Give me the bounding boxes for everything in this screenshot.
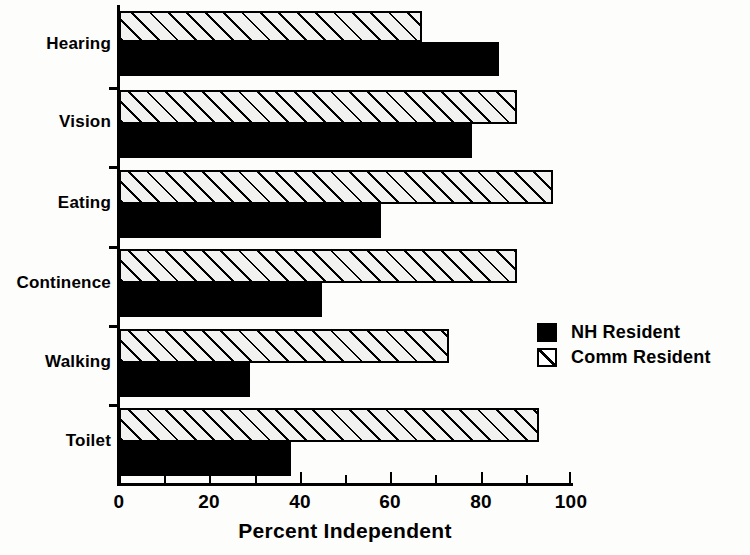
y-axis-tick-3 (109, 246, 118, 249)
bar-comm-continence (119, 249, 517, 283)
x-tick-30 (255, 475, 257, 483)
x-tick-label-0: 0 (114, 491, 125, 513)
bar-nh-walking (119, 363, 250, 397)
y-axis-label-vision: Vision (59, 112, 111, 132)
x-tick-60 (390, 472, 392, 483)
x-tick-label-100: 100 (555, 491, 587, 513)
y-axis-label-continence: Continence (16, 273, 111, 293)
x-tick-20 (209, 472, 211, 483)
x-tick-label-40: 40 (289, 491, 311, 513)
bar-nh-toilet (119, 442, 291, 476)
x-axis-title: Percent Independent (119, 519, 571, 543)
x-tick-10 (164, 475, 166, 483)
bar-nh-eating (119, 204, 381, 238)
bar-comm-eating (119, 170, 553, 204)
bar-nh-vision (119, 124, 472, 158)
bar-comm-walking (119, 329, 449, 363)
plot-area (119, 5, 571, 483)
x-tick-0 (119, 472, 121, 483)
x-tick-70 (435, 475, 437, 483)
x-tick-50 (345, 475, 347, 483)
legend-label-nh-resident: NH Resident (571, 322, 680, 343)
bar-nh-hearing (119, 42, 499, 76)
x-tick-40 (300, 472, 302, 483)
bar-comm-vision (119, 90, 517, 124)
legend-entry-comm-resident: Comm Resident (537, 345, 711, 370)
x-tick-90 (526, 475, 528, 483)
x-tick-label-20: 20 (198, 491, 220, 513)
y-axis-tick-2 (109, 166, 118, 169)
bar-chart: Hearing Vision Eating Continence Walking… (0, 0, 750, 555)
y-axis-label-hearing: Hearing (46, 34, 111, 54)
bar-comm-hearing (119, 11, 422, 42)
x-tick-100 (569, 472, 571, 483)
y-axis-tick-4 (109, 325, 118, 328)
hatched-swatch-icon (537, 348, 557, 367)
x-tick-label-60: 60 (379, 491, 401, 513)
y-axis-label-eating: Eating (58, 193, 111, 213)
x-axis-line (117, 483, 573, 486)
y-axis-tick-1 (109, 87, 118, 90)
bar-comm-toilet (119, 408, 539, 442)
legend-entry-nh-resident: NH Resident (537, 320, 711, 345)
bar-nh-continence (119, 283, 322, 317)
y-axis-label-toilet: Toilet (66, 431, 111, 451)
x-tick-80 (481, 472, 483, 483)
x-tick-label-80: 80 (470, 491, 492, 513)
y-axis-category-labels: Hearing Vision Eating Continence Walking… (0, 0, 111, 555)
solid-swatch-icon (537, 323, 557, 342)
chart-legend: NH Resident Comm Resident (537, 320, 711, 370)
y-axis-tick-5 (109, 404, 118, 407)
legend-label-comm-resident: Comm Resident (571, 347, 711, 368)
y-axis-label-walking: Walking (45, 352, 111, 372)
